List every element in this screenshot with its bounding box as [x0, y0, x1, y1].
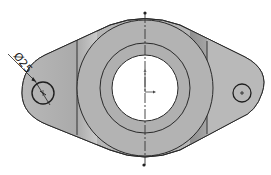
centerline-top-endpoint [143, 11, 146, 14]
technical-drawing: Ø25 [0, 0, 271, 175]
centerline-bottom-endpoint [142, 163, 145, 166]
